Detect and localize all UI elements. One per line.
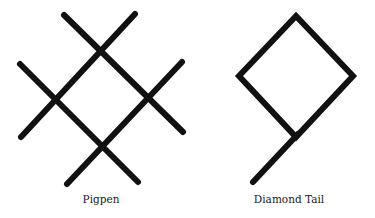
diamond-shape: [239, 16, 353, 137]
cipher-figures: Pigpen Diamond Tail: [0, 0, 375, 218]
diamond-tail-caption: Diamond Tail: [254, 193, 324, 205]
pigpen-caption: Pigpen: [83, 193, 120, 205]
diamond-tail-symbol: [239, 16, 353, 182]
pigpen-symbol: [20, 14, 183, 184]
diamond-tail-line: [253, 134, 298, 182]
